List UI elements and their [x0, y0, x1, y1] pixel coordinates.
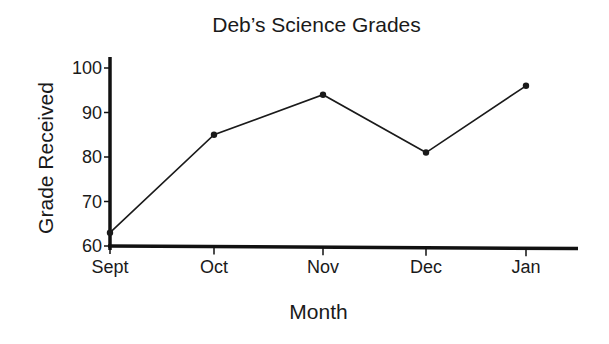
x-axis-line — [108, 246, 578, 249]
data-point-marker — [211, 132, 217, 138]
x-tick-label: Nov — [307, 257, 339, 278]
y-tick-label: 60 — [58, 236, 102, 257]
x-tick-label: Jan — [511, 257, 540, 278]
axes — [104, 57, 578, 256]
data-point-marker — [107, 229, 113, 235]
data-point-marker — [523, 83, 529, 89]
x-tick-label: Sept — [91, 257, 128, 278]
plot-area — [0, 0, 609, 344]
chart-container: Deb’s Science Grades Grade Received 6070… — [0, 0, 609, 344]
y-tick-label: 70 — [58, 191, 102, 212]
y-tick-label: 100 — [58, 58, 102, 79]
series-line — [110, 86, 526, 233]
y-tick-label: 80 — [58, 147, 102, 168]
data-point-marker — [320, 92, 326, 98]
data-point-marker — [423, 149, 429, 155]
x-axis-label: Month — [0, 300, 609, 324]
data-series — [107, 83, 529, 236]
x-tick-label: Dec — [410, 257, 442, 278]
x-tick-label: Oct — [200, 257, 228, 278]
y-tick-label: 90 — [58, 102, 102, 123]
